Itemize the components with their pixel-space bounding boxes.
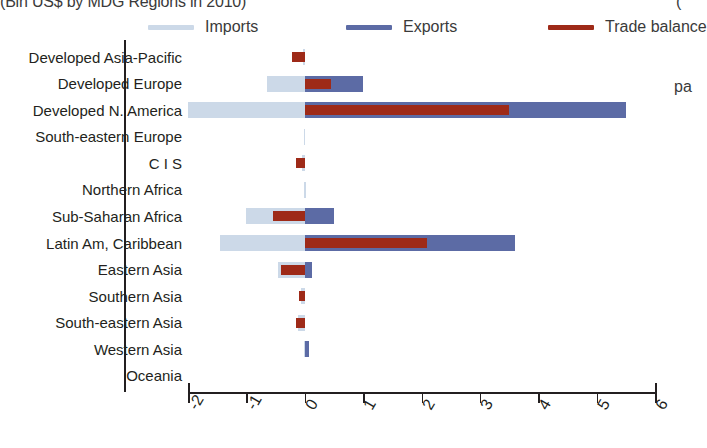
bar-trade-balance — [296, 158, 305, 168]
bar-group — [188, 203, 655, 230]
bar-group — [188, 362, 655, 389]
bar-group — [188, 177, 655, 204]
plot-area — [188, 44, 655, 389]
legend-label-exports: Exports — [403, 19, 457, 35]
zero-baseline — [124, 40, 126, 392]
bar-imports — [188, 102, 305, 118]
legend-swatch-trade-balance — [548, 25, 594, 30]
bar-trade-balance — [305, 79, 331, 89]
category-label: Eastern Asia — [98, 256, 182, 283]
bar-group — [188, 336, 655, 363]
bar-exports — [305, 341, 309, 357]
x-axis-tick-label: 6 — [652, 396, 672, 413]
category-label: Western Asia — [94, 336, 182, 363]
category-label: C I S — [149, 150, 182, 177]
bar-imports — [304, 129, 306, 145]
category-label: Oceania — [126, 362, 182, 389]
bar-group — [188, 71, 655, 98]
legend-swatch-exports — [346, 25, 392, 30]
x-axis-tick-label: 5 — [594, 396, 614, 413]
legend-label-imports: Imports — [205, 19, 258, 35]
bar-exports — [305, 208, 334, 224]
category-label: Latin Am, Caribbean — [46, 230, 182, 257]
chart-legend: Imports Exports Trade balance — [148, 15, 699, 39]
chart-title-right-fragment: ( — [676, 0, 681, 11]
category-label: South-eastern Europe — [35, 124, 182, 151]
x-axis-tick-label: 0 — [302, 396, 322, 413]
category-label: South-eastern Asia — [55, 309, 182, 336]
bar-group — [188, 124, 655, 151]
category-label: Northern Africa — [82, 177, 182, 204]
bar-group — [188, 230, 655, 257]
legend-item-imports: Imports — [148, 15, 258, 39]
bar-trade-balance — [292, 52, 305, 62]
bar-group — [188, 256, 655, 283]
x-axis-tick-label: 3 — [477, 396, 497, 413]
legend-item-exports: Exports — [346, 15, 457, 39]
legend-item-trade-balance: Trade balance — [548, 15, 707, 39]
x-axis-tick-label: 2 — [419, 396, 439, 413]
bar-trade-balance — [296, 318, 305, 328]
bar-group — [188, 44, 655, 71]
bar-group — [188, 309, 655, 336]
legend-label-trade-balance: Trade balance — [605, 19, 707, 35]
bar-imports — [267, 76, 305, 92]
bar-trade-balance — [273, 211, 305, 221]
bar-trade-balance — [281, 265, 304, 275]
category-label: Developed Asia-Pacific — [29, 44, 182, 71]
category-label: Developed Europe — [58, 71, 182, 98]
x-axis-tick-label: 1 — [360, 396, 380, 413]
bar-group — [188, 97, 655, 124]
side-note-text: pa — [674, 78, 692, 96]
legend-swatch-imports — [148, 25, 194, 30]
bar-trade-balance — [305, 105, 509, 115]
bar-group — [188, 150, 655, 177]
bar-group — [188, 283, 655, 310]
bar-imports — [220, 235, 305, 251]
category-axis-labels: Developed Asia-PacificDeveloped EuropeDe… — [0, 44, 182, 389]
bar-trade-balance — [299, 291, 305, 301]
bar-exports — [305, 262, 312, 278]
bar-imports — [304, 182, 306, 198]
category-label: Southern Asia — [89, 283, 182, 310]
chart-title: (Bln US$ by MDG Regions in 2010) — [0, 0, 246, 11]
category-label: Sub-Saharan Africa — [52, 203, 182, 230]
bar-trade-balance — [305, 238, 428, 248]
category-label: Developed N. America — [33, 97, 182, 124]
x-axis-tick-label: 4 — [535, 396, 555, 413]
x-axis-tick-label: -1 — [243, 392, 266, 413]
